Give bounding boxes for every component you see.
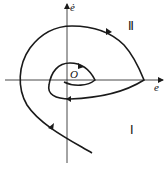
y-axis-label: ė bbox=[70, 2, 75, 13]
origin-label: O bbox=[70, 69, 78, 80]
x-axis-label: e bbox=[154, 82, 159, 93]
phase-plane-diagram: ė e O Ⅱ Ⅰ bbox=[0, 0, 168, 175]
phase-trajectory bbox=[20, 26, 144, 153]
region-1-label: Ⅰ bbox=[130, 124, 134, 136]
phase-plane-canvas bbox=[0, 0, 168, 175]
region-2-label: Ⅱ bbox=[128, 20, 134, 32]
